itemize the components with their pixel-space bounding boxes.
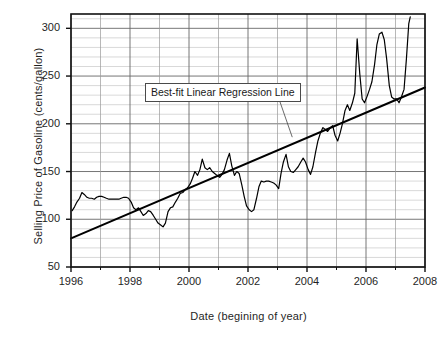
regression-line-annotation: Best-fit Linear Regression Line — [145, 83, 301, 102]
gasoline-price-line-chart: Selling Price of Gasoline (cents/gallon)… — [0, 0, 447, 347]
plot-area — [0, 0, 447, 347]
